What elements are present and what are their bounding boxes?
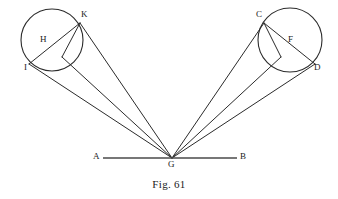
point-label-b: B	[240, 152, 246, 161]
figure-caption: Fig. 61	[0, 178, 338, 190]
secant-g-to-d	[172, 64, 315, 158]
point-label-k: K	[81, 10, 88, 19]
geometry-drawing	[0, 0, 338, 199]
left-circle	[21, 9, 83, 71]
secant-g-to-i	[29, 64, 172, 158]
figure-container: A B G K H I C F D Fig. 61	[0, 0, 338, 199]
point-label-i: I	[24, 63, 27, 72]
point-label-c: C	[256, 10, 262, 19]
point-label-g: G	[168, 160, 175, 169]
right-inner-chord	[264, 23, 281, 57]
point-label-h: H	[40, 35, 47, 44]
left-inner-chord	[62, 23, 80, 57]
secant-g-to-c	[172, 23, 264, 158]
chord-i-k	[29, 23, 80, 64]
secant-g-through-right-lower-chord	[172, 57, 281, 158]
point-label-a: A	[93, 152, 100, 161]
secant-g-to-k	[80, 23, 172, 158]
point-label-d: D	[314, 63, 321, 72]
point-label-f: F	[288, 35, 293, 44]
secant-g-through-lower-chord	[62, 57, 172, 158]
